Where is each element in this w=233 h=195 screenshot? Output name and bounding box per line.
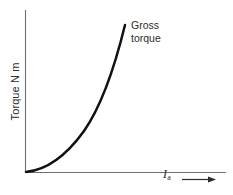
y-axis-label-text: Torque N m — [11, 62, 22, 120]
curve-annotation-line-1: Gross — [131, 19, 161, 32]
curve-annotation-line-2: torque — [131, 32, 161, 45]
plot-area — [0, 0, 233, 195]
curve-annotation: Gross torque — [131, 19, 161, 44]
arrow-right-icon — [182, 177, 216, 183]
torque-characteristic-figure: Torque N m Gross torque Ia — [0, 0, 233, 195]
y-axis-label: Torque N m — [6, 52, 26, 130]
x-axis-subscript: a — [167, 173, 171, 182]
x-axis-label: Ia — [163, 168, 171, 182]
gross-torque-curve — [26, 25, 125, 172]
